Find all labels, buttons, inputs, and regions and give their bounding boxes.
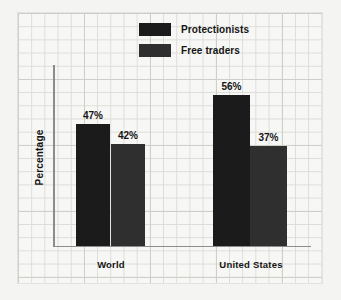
- bar-value-world-free-traders: 42%: [111, 130, 145, 141]
- bar-chart: Protectionists Free traders Percentage 4…: [0, 0, 341, 300]
- bar-world-free-traders: [111, 144, 145, 246]
- bar-united-states-protectionists: [213, 95, 250, 246]
- legend-label-free-traders: Free traders: [181, 45, 240, 56]
- bar-value-world-protectionists: 47%: [76, 110, 110, 121]
- category-label-united-states: United States: [215, 259, 287, 270]
- bar-united-states-free-traders: [250, 146, 287, 246]
- bar-value-united-states-protectionists: 56%: [213, 81, 250, 92]
- y-axis-title: Percentage: [34, 113, 45, 203]
- legend-item-free-traders: Free traders: [139, 43, 299, 58]
- legend-item-protectionists: Protectionists: [139, 22, 299, 37]
- plot-area: 47% 42% 56% 37%: [53, 60, 311, 246]
- chart-legend: Protectionists Free traders: [139, 22, 299, 64]
- legend-label-protectionists: Protectionists: [181, 24, 249, 35]
- legend-swatch-free-traders: [139, 44, 171, 57]
- category-label-world: World: [76, 259, 146, 270]
- bar-value-united-states-free-traders: 37%: [250, 132, 287, 143]
- bar-world-protectionists: [76, 124, 110, 246]
- legend-swatch-protectionists: [139, 23, 171, 36]
